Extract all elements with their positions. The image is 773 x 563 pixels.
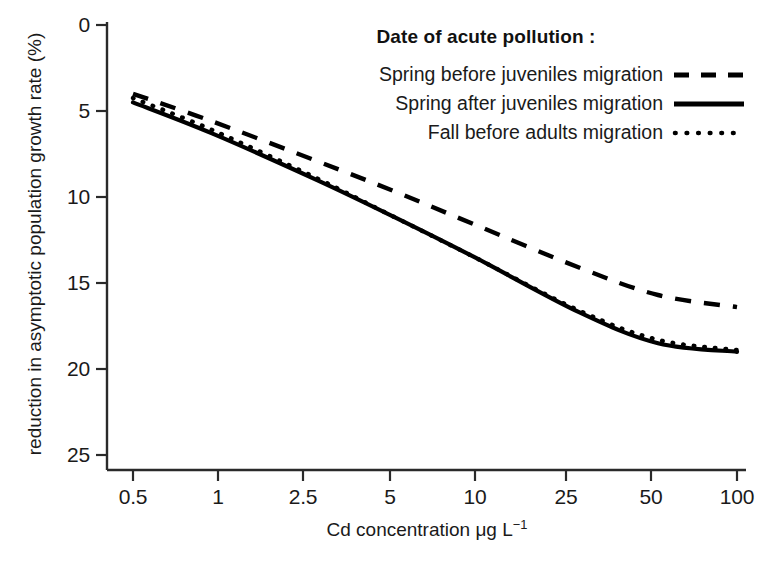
legend-item-label: Fall before adults migration (428, 121, 672, 144)
figure-chart: 0 5 10 15 20 25 0.5 1 2.5 5 10 25 50 100… (0, 0, 773, 563)
legend-item-fall-before-adults-migration: Fall before adults migration (226, 119, 746, 146)
x-axis-title-base: Cd concentration μg L (327, 519, 513, 540)
legend-item-spring-before-juveniles-migration: Spring before juveniles migration (226, 61, 746, 88)
legend-item-spring-after-juveniles-migration: Spring after juveniles migration (226, 90, 746, 117)
legend-swatch-dotted-line (672, 124, 746, 142)
x-tick-label-0.5: 0.5 (119, 485, 148, 509)
x-tick-label-25: 25 (555, 485, 578, 509)
legend: Date of acute pollution : Spring before … (226, 26, 746, 148)
x-axis-ticks (133, 470, 737, 481)
x-tick-label-50: 50 (640, 485, 663, 509)
y-axis-title: reduction in asymptotic population growt… (24, 9, 46, 479)
y-axis-ticks (96, 25, 107, 455)
legend-title: Date of acute pollution : (226, 26, 746, 48)
legend-swatch-solid-line (672, 95, 746, 113)
x-tick-label-2.5: 2.5 (289, 485, 318, 509)
x-tick-label-10: 10 (464, 485, 487, 509)
legend-item-label: Spring after juveniles migration (395, 92, 672, 115)
legend-item-label: Spring before juveniles migration (379, 63, 672, 86)
x-tick-label-1: 1 (212, 485, 223, 509)
x-tick-label-100: 100 (720, 485, 754, 509)
x-axis-title-exponent: −1 (513, 517, 528, 532)
x-axis-title: Cd concentration μg L−1 (107, 519, 747, 541)
legend-swatch-dashed-line (672, 66, 746, 84)
x-tick-label-5: 5 (384, 485, 395, 509)
